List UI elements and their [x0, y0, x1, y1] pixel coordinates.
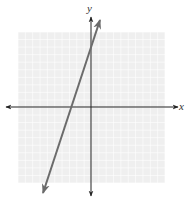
x-axis-label: x: [179, 100, 184, 112]
coordinate-plane: [0, 0, 187, 201]
y-axis-label: y: [87, 2, 92, 14]
